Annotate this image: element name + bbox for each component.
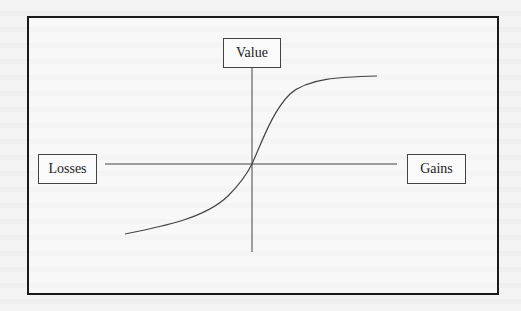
value-label: Value [236, 45, 268, 61]
value-curve [125, 76, 377, 234]
losses-label: Losses [48, 161, 86, 177]
gains-label: Gains [420, 161, 453, 177]
gains-label-box: Gains [407, 154, 466, 184]
value-label-box: Value [223, 38, 281, 68]
losses-label-box: Losses [38, 154, 97, 184]
